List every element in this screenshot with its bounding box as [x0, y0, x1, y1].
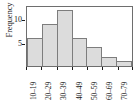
x-axis-tick-label: 30–39	[59, 74, 69, 107]
y-axis-tick-label: 5	[8, 40, 22, 48]
y-axis-tick-label: 10	[8, 16, 22, 24]
x-axis-tick-label: 60–69	[105, 74, 115, 107]
x-axis-tick-label: 10–19	[29, 74, 39, 107]
x-axis-label-slot: 50–59	[87, 70, 102, 106]
bar-series	[27, 7, 132, 66]
x-axis-label-slot: 10–19	[26, 70, 41, 106]
x-axis-label-slot: 70–79	[118, 70, 133, 106]
bar	[42, 24, 58, 66]
bar	[72, 38, 88, 66]
x-axis-tick-label: 70–79	[120, 74, 130, 107]
bar	[86, 47, 102, 66]
bar	[116, 61, 132, 66]
x-axis-label-slot: 20–29	[41, 70, 56, 106]
bar	[27, 38, 43, 66]
x-axis-label-slot: 60–69	[102, 70, 117, 106]
plot-area	[26, 6, 133, 67]
y-axis-tick-mark	[22, 20, 25, 21]
y-axis-tick-mark	[22, 44, 25, 45]
x-axis-tick-label: 40–49	[75, 74, 85, 107]
y-axis-tick-group: 510	[6, 0, 22, 107]
x-axis-label-slot: 30–39	[57, 70, 72, 106]
x-axis-label-slot: 40–49	[72, 70, 87, 106]
bar	[57, 10, 73, 66]
x-axis-tick-label: 20–29	[44, 74, 54, 107]
bar	[101, 57, 117, 66]
histogram-figure: Frequency 510 10–1920–2930–3940–4950–596…	[0, 0, 138, 107]
x-axis-label-group: 10–1920–2930–3940–4950–5960–6970–79	[26, 70, 133, 107]
x-axis-tick-label: 50–59	[90, 74, 100, 107]
